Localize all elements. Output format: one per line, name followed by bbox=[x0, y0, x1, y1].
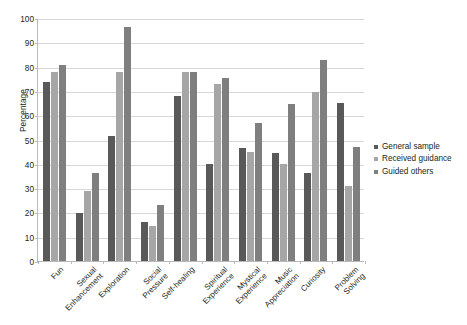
y-tick-label: 0 bbox=[29, 258, 34, 266]
y-tick-label: 90 bbox=[25, 39, 34, 47]
x-axis-labels: FunSexual EnhancementExplorationSocial P… bbox=[37, 265, 364, 325]
bar bbox=[214, 84, 221, 261]
y-tick-label: 10 bbox=[25, 234, 34, 242]
legend-swatch bbox=[374, 170, 378, 174]
bar bbox=[288, 104, 295, 261]
x-tick-mark bbox=[300, 261, 301, 264]
x-tick-mark bbox=[365, 261, 366, 264]
bar-group bbox=[332, 19, 365, 261]
bar bbox=[174, 96, 181, 261]
legend-label: Received guidance bbox=[382, 155, 452, 163]
x-tick-mark bbox=[103, 261, 104, 264]
x-tick-mark bbox=[234, 261, 235, 264]
x-tick-mark bbox=[267, 261, 268, 264]
y-tick-label: 80 bbox=[25, 63, 34, 71]
bar bbox=[108, 136, 115, 261]
bar-group bbox=[136, 19, 169, 261]
bar bbox=[76, 213, 83, 261]
x-tick-mark bbox=[202, 261, 203, 264]
bar bbox=[337, 103, 344, 262]
legend-item[interactable]: Guided others bbox=[374, 168, 467, 176]
bar-group bbox=[300, 19, 333, 261]
y-tick-label: 70 bbox=[25, 88, 34, 96]
bar bbox=[149, 226, 156, 261]
x-tick-mark bbox=[136, 261, 137, 264]
y-tick-label: 20 bbox=[25, 209, 34, 217]
bar bbox=[345, 186, 352, 261]
legend: General sampleReceived guidanceGuided ot… bbox=[374, 143, 467, 180]
y-tick-label: 40 bbox=[25, 161, 34, 169]
bar bbox=[157, 205, 164, 261]
y-tick-label: 100 bbox=[20, 15, 34, 23]
bar bbox=[353, 147, 360, 261]
legend-label: General sample bbox=[382, 143, 440, 151]
bar bbox=[116, 72, 123, 261]
y-tick-label: 30 bbox=[25, 185, 34, 193]
bar bbox=[59, 65, 66, 261]
bar-group bbox=[71, 19, 104, 261]
bar-group bbox=[169, 19, 202, 261]
bar-group bbox=[202, 19, 235, 261]
bar bbox=[280, 164, 287, 261]
bar bbox=[255, 123, 262, 261]
bar-group bbox=[234, 19, 267, 261]
plot-area: 0102030405060708090100 bbox=[37, 19, 364, 262]
bars-layer bbox=[38, 19, 364, 261]
bar bbox=[320, 60, 327, 261]
x-tick-mark bbox=[38, 261, 39, 264]
bar bbox=[141, 222, 148, 261]
bar-group bbox=[267, 19, 300, 261]
bar bbox=[239, 148, 246, 261]
bar bbox=[206, 164, 213, 261]
x-tick-mark bbox=[169, 261, 170, 264]
bar-group bbox=[38, 19, 71, 261]
bar bbox=[92, 173, 99, 261]
y-tick-label: 50 bbox=[25, 136, 34, 144]
legend-swatch bbox=[374, 145, 378, 149]
bar bbox=[51, 72, 58, 261]
bar bbox=[182, 72, 189, 261]
bar bbox=[43, 82, 50, 261]
bar-chart-figure: Percentage 0102030405060708090100 FunSex… bbox=[0, 0, 467, 325]
bar-group bbox=[103, 19, 136, 261]
legend-label: Guided others bbox=[382, 168, 433, 176]
bar bbox=[247, 152, 254, 261]
bar bbox=[312, 92, 319, 261]
y-tick-label: 60 bbox=[25, 112, 34, 120]
x-tick-mark bbox=[71, 261, 72, 264]
bar bbox=[272, 153, 279, 261]
legend-item[interactable]: General sample bbox=[374, 143, 467, 151]
bar bbox=[222, 78, 229, 261]
x-tick-mark bbox=[332, 261, 333, 264]
bar bbox=[304, 173, 311, 261]
bar bbox=[190, 72, 197, 261]
legend-item[interactable]: Received guidance bbox=[374, 155, 467, 163]
bar bbox=[124, 27, 131, 261]
bar bbox=[84, 191, 91, 261]
legend-swatch bbox=[374, 157, 378, 161]
